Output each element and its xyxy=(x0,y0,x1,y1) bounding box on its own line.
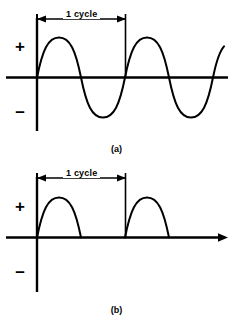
cycle-arrow-head-left-a xyxy=(37,15,46,22)
x-axis-arrowhead-b xyxy=(218,233,228,242)
negative-sign-a: – xyxy=(12,103,28,120)
figure-panel-b: + – 1 cycle (b) xyxy=(0,167,233,334)
figure-panel-a: + – 1 cycle (a) xyxy=(0,0,233,167)
cycle-arrow-head-left-b xyxy=(37,174,46,181)
cycle-arrow-head-right-b xyxy=(117,174,126,181)
negative-sign-b: – xyxy=(12,263,28,280)
cycle-label-b: 1 cycle xyxy=(63,169,100,178)
waveform-plot-a xyxy=(0,0,233,167)
panel-caption-a: (a) xyxy=(0,145,233,154)
positive-sign-b: + xyxy=(12,198,28,215)
panel-caption-b: (b) xyxy=(0,306,233,315)
rectified-hump-2-b xyxy=(125,198,169,238)
positive-sign-a: + xyxy=(12,38,28,55)
rectified-hump-1-b xyxy=(37,198,81,238)
cycle-label-a: 1 cycle xyxy=(63,10,100,19)
cycle-arrow-head-right-a xyxy=(117,15,126,22)
